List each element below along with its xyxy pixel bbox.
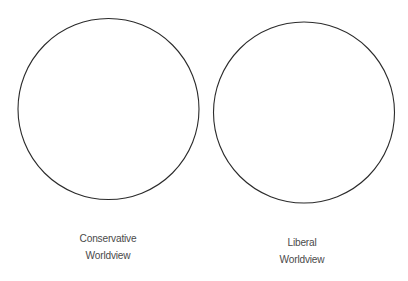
liberal-worldview-label: Liberal Worldview [256,234,348,268]
label-line: Conservative [62,230,154,247]
label-line: Worldview [256,251,348,268]
conservative-worldview-label: Conservative Worldview [62,230,154,264]
conservative-worldview-circle [18,19,199,200]
label-line: Worldview [62,247,154,264]
liberal-worldview-circle [214,22,395,203]
label-line: Liberal [256,234,348,251]
